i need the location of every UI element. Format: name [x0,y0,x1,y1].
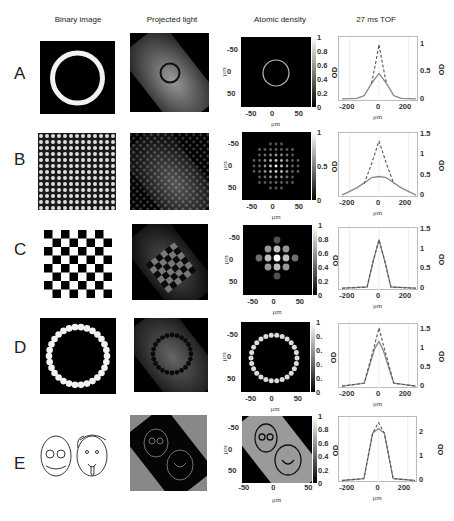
y-axis-label: μm [221,445,229,454]
x-tick: -50 [246,203,257,211]
colorbar-tick: 0.2 [318,467,328,475]
tof-x-tick: 0 [376,199,380,207]
binary-image-ring-of-dots [40,318,116,394]
x-tick: 0 [270,110,274,118]
tof-y-tick: 0.5 [420,363,430,371]
tof-x-tick: -200 [339,199,354,207]
colorbar-tick: 0 [317,197,321,205]
colorbar-tick: 0.4 [318,453,328,461]
row-label-c: C [14,240,26,260]
tof-plot [338,323,418,388]
colorbar-tick: 0.6 [318,440,328,448]
colorbar-tick: 0.2 [317,90,327,98]
atomic-density-ring [241,37,311,107]
tof-y-label: OD [437,350,446,361]
colorbar-tick: 1 [317,34,321,42]
colorbar-tick: 0 [316,389,320,397]
colorbar-tick: 0.6 [317,62,327,70]
x-tick: 0 [271,484,275,492]
tof-y-tick: 0 [420,191,424,199]
row-label-d: D [14,338,26,358]
tof-y-label: OD [436,444,445,455]
x-tick: -50 [247,298,258,306]
colorbar-label: OD [329,352,338,363]
x-tick: 50 [304,484,312,492]
tof-y-tick: 0.5 [420,171,430,179]
tof-x-tick: -200 [339,292,354,300]
y-tick: -50 [229,234,240,242]
colorbar-tick: 1 [316,319,320,327]
tof-y-tick: 1 [420,344,424,352]
colorbar-tick: 0. [316,333,322,341]
x-tick: 0 [271,203,275,211]
column-title-binary: Binary image [28,15,128,24]
colorbar-tick: 0. [316,361,322,369]
colorbar [312,37,316,107]
x-tick: 0 [272,298,276,306]
tof-x-tick: 0 [376,484,380,492]
colorbar-tick: 1 [318,222,322,230]
tof-x-axis-label: μm [373,113,382,121]
x-tick: -50 [246,110,257,118]
colorbar-tick: 0.2 [318,278,328,286]
tof-x-tick: -200 [339,484,354,492]
column-title-projected: Projected light [122,15,222,24]
tof-y-label: OD [437,253,446,264]
projected-light-portraits [130,415,207,491]
binary-image-checkerboard [44,230,112,298]
y-tick: 50 [229,278,237,286]
y-tick: 50 [228,184,236,192]
tof-x-axis-label: μm [373,209,382,217]
projected-light-lattice [130,133,209,210]
colorbar [311,322,315,392]
y-tick: 0 [229,256,233,264]
colorbar-tick: 0.5 [317,163,327,171]
tof-y-tick: 0.5 [420,67,430,75]
tof-x-tick: -200 [339,103,354,111]
tof-y-tick: 1.5 [420,325,430,333]
projected-light-ring-of-dots [134,318,208,392]
x-tick: 50 [295,110,303,118]
tof-y-label: OD [437,63,446,74]
y-tick: 0 [227,68,231,76]
tof-y-tick: 0 [420,382,424,390]
y-axis-label: μm [222,255,230,264]
row-label-a: A [14,64,25,84]
tof-y-tick: 1 [420,245,424,253]
tof-y-tick: 0 [419,476,423,484]
tof-x-tick: 200 [399,292,412,300]
tof-x-tick: 0 [376,390,380,398]
tof-x-tick: 0 [376,292,380,300]
tof-y-tick: 2 [419,428,423,436]
projected-light-checkerboard [132,224,208,300]
colorbar-tick: 0 [318,480,322,488]
tof-plot [338,36,418,101]
tof-x-tick: 200 [399,103,412,111]
y-tick: -50 [228,424,239,432]
projected-light-ring [130,33,209,112]
x-tick: 0 [270,395,274,403]
tof-x-tick: 200 [399,390,412,398]
colorbar-tick: 0.4 [318,264,328,272]
colorbar-tick: 0. [316,347,322,355]
x-axis-label: μm [272,213,281,221]
colorbar-tick: 0 [318,292,322,300]
x-tick: 50 [295,203,303,211]
colorbar-tick: 0.8 [318,426,328,434]
tof-plot [338,132,418,197]
x-tick: -50 [238,484,249,492]
colorbar-tick: 1 [318,413,322,421]
tof-x-tick: 200 [398,484,411,492]
column-title-tof: 27 ms TOF [326,15,426,24]
tof-x-axis-label: μm [373,302,382,310]
tof-y-tick: 0 [420,95,424,103]
row-label-b: B [14,150,25,170]
tof-y-tick: 1 [419,452,423,460]
atomic-density-lattice [242,132,311,200]
tof-y-tick: 0.5 [420,264,430,272]
y-tick: -50 [227,331,238,339]
tof-plot [338,416,417,482]
colorbar-tick: 0.8 [318,236,328,244]
y-tick: -50 [228,140,239,148]
row-label-e: E [14,454,25,474]
